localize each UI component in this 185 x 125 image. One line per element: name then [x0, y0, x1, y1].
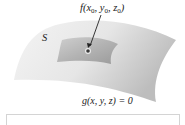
point-label: f(x0, y0, z0)	[80, 3, 124, 15]
constraint-equation: g(x, y, z) = 0	[82, 96, 133, 106]
point-dot	[86, 49, 90, 53]
caption-frame	[6, 114, 180, 125]
surface-diagram	[0, 0, 185, 125]
surface-label: S	[42, 33, 47, 44]
